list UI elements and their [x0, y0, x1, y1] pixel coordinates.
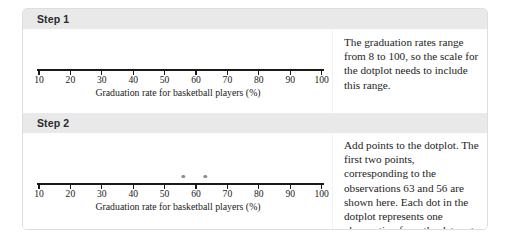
step-2-header: Step 2	[23, 113, 487, 133]
axis-tick-label: 80	[254, 188, 264, 199]
axis-tick-label: 40	[128, 74, 138, 85]
axis-tick-label: 50	[160, 188, 170, 199]
axis-tick-label: 100	[314, 188, 328, 199]
step-1-body: Graduation rate for basketball players (…	[23, 29, 487, 113]
step-1-description: The graduation rates range from 8 to 100…	[333, 29, 487, 113]
dotplot-dot	[204, 175, 207, 178]
step-2-plot-pane: Graduation rate for basketball players (…	[23, 133, 333, 229]
axis-title: Graduation rate for basketball players (…	[23, 87, 333, 98]
step-2-description: Add points to the dotplot. The first two…	[333, 133, 487, 229]
axis-tick-label: 70	[223, 74, 233, 85]
axis-line	[37, 183, 324, 185]
step-block-2: Step 2 Graduation rate for basketball pl…	[23, 113, 487, 229]
axis-tick-label: 50	[160, 74, 170, 85]
steps-card: Step 1 Graduation rate for basketball pl…	[22, 8, 488, 230]
axis-tick-label: 60	[191, 188, 201, 199]
axis-tick-label: 20	[66, 188, 76, 199]
axis-tick-label: 30	[97, 188, 107, 199]
axis-line	[37, 69, 324, 71]
step-1-dotplot: Graduation rate for basketball players (…	[23, 29, 333, 113]
step-block-1: Step 1 Graduation rate for basketball pl…	[23, 9, 487, 113]
axis-tick-label: 20	[66, 74, 76, 85]
figure-root: Step 1 Graduation rate for basketball pl…	[0, 0, 510, 243]
axis-tick-label: 10	[34, 74, 44, 85]
axis-tick-label: 90	[285, 74, 295, 85]
axis-tick-label: 30	[97, 74, 107, 85]
axis-tick-label: 40	[128, 188, 138, 199]
axis-tick-label: 70	[223, 188, 233, 199]
axis-tick-label: 80	[254, 74, 264, 85]
step-1-header: Step 1	[23, 9, 487, 29]
axis-tick-label: 10	[34, 188, 44, 199]
axis-tick-label: 60	[191, 74, 201, 85]
axis-title: Graduation rate for basketball players (…	[23, 201, 333, 212]
axis-tick-label: 100	[314, 74, 328, 85]
step-2-dotplot: Graduation rate for basketball players (…	[23, 133, 333, 229]
dotplot-dot	[182, 175, 185, 178]
step-2-body: Graduation rate for basketball players (…	[23, 133, 487, 229]
axis-tick-label: 90	[285, 188, 295, 199]
step-1-plot-pane: Graduation rate for basketball players (…	[23, 29, 333, 113]
